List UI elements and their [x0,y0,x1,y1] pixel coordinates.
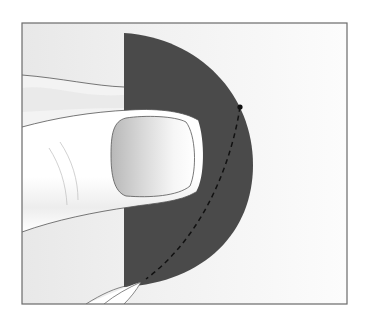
thumbnail [111,116,195,196]
thumb-disc-illustration [0,0,367,324]
marker-dot [237,104,242,109]
